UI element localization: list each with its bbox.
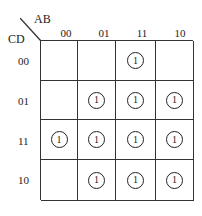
circled-one: 1 [166,131,183,148]
col-label-10: 10 [161,27,199,39]
cell-r0-c2: 1 [116,41,156,81]
row-label-11: 11 [18,135,29,147]
circled-one: 1 [127,92,144,109]
cell-r0-c1 [78,41,116,81]
cell-r1-c3: 1 [156,81,194,120]
cell-r3-c1: 1 [78,160,116,201]
circled-one: 1 [88,131,105,148]
cell-r3-c3: 1 [156,160,194,201]
cell-r1-c0 [41,81,78,120]
circled-one: 1 [166,172,183,189]
cell-r0-c0 [41,41,78,81]
cell-r2-c1: 1 [78,120,116,160]
cell-r2-c2: 1 [116,120,156,160]
col-variable-label: AB [34,13,51,25]
row-label-00: 00 [18,55,29,67]
col-label-00: 00 [47,27,85,39]
circled-one: 1 [166,92,183,109]
cell-r0-c3 [156,41,194,81]
circled-one: 1 [51,131,68,148]
row-label-01: 01 [18,95,29,107]
cell-r1-c2: 1 [116,81,156,120]
cell-r2-c0: 1 [41,120,78,160]
cell-r1-c1: 1 [78,81,116,120]
row-variable-label: CD [8,33,25,45]
circled-one: 1 [127,131,144,148]
circled-one: 1 [127,172,144,189]
circled-one: 1 [127,52,144,69]
col-label-11: 11 [123,27,161,39]
row-label-10: 10 [18,174,29,186]
col-label-01: 01 [85,27,123,39]
cell-r3-c0 [41,160,78,201]
circled-one: 1 [88,172,105,189]
cell-r3-c2: 1 [116,160,156,201]
circled-one: 1 [88,92,105,109]
cell-r2-c3: 1 [156,120,194,160]
karnaugh-map-grid: 1 1 1 1 1 1 1 1 1 1 1 [40,40,193,200]
